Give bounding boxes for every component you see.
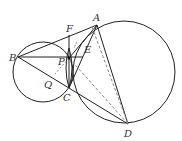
segment-AP	[69, 25, 97, 58]
label-F: F	[65, 23, 74, 34]
label-D: D	[123, 128, 132, 139]
large-circle	[73, 21, 175, 123]
label-Q: Q	[44, 79, 52, 90]
label-E: E	[83, 44, 92, 55]
dashed-AD-inner	[92, 27, 128, 124]
dashed-FE	[74, 42, 77, 48]
point-P	[68, 57, 71, 60]
label-A: A	[92, 12, 100, 23]
label-B: B	[8, 52, 16, 63]
segment-AD	[97, 25, 128, 124]
geometry-diagram: A B C D E F P Q	[0, 0, 182, 141]
label-C: C	[63, 92, 71, 103]
label-P: P	[57, 56, 65, 67]
